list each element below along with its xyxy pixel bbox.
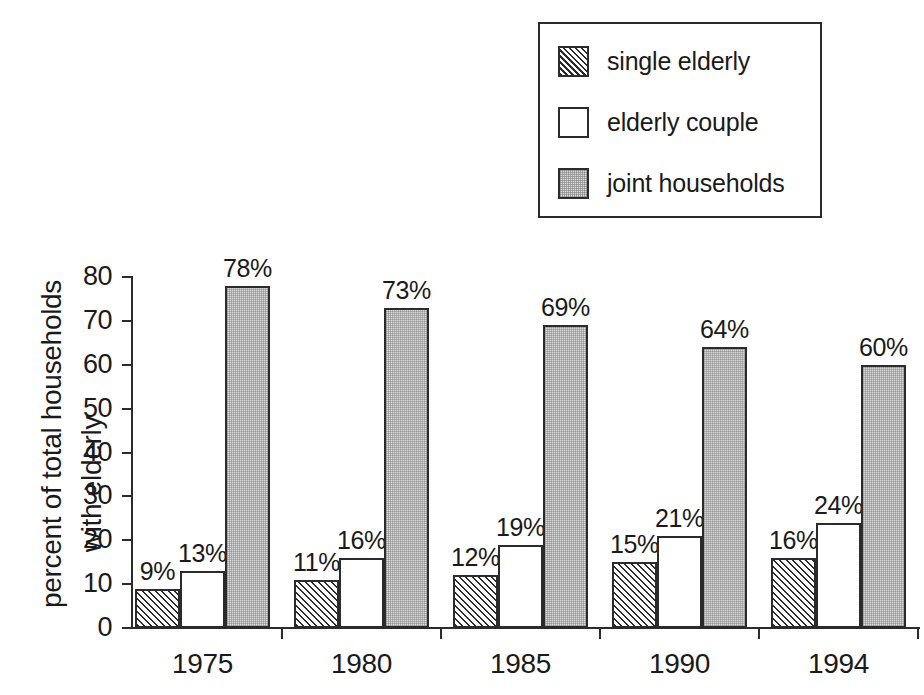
x-axis-group-label-1985: 1985 (433, 650, 608, 678)
y-axis-tick (122, 364, 133, 366)
bar-joint-households-1975 (225, 286, 270, 628)
y-axis-tick (122, 452, 133, 454)
y-axis-tick (122, 276, 133, 278)
bar-elderly-couple-1975 (180, 571, 225, 628)
y-axis-title-line1: percent of total households (38, 244, 66, 644)
bar-single-elderly-1990 (612, 562, 657, 628)
bar-value-label: 64% (688, 317, 761, 342)
bar-single-elderly-1975 (135, 589, 180, 628)
bar-elderly-couple-1980 (339, 558, 384, 628)
bar-value-label: 78% (211, 256, 284, 281)
x-axis-group-label-1994: 1994 (751, 650, 924, 678)
bar-value-label: 73% (370, 278, 443, 303)
bar-joint-households-1980 (384, 308, 429, 628)
bar-single-elderly-1980 (294, 580, 339, 628)
y-axis-tick (122, 408, 133, 410)
y-axis-tick (122, 320, 133, 322)
x-axis-separator-tick (281, 628, 283, 639)
bar-joint-households-1990 (702, 347, 747, 628)
bar-joint-households-1985 (543, 325, 588, 628)
x-axis-separator-tick (599, 628, 601, 639)
y-axis-tick (122, 495, 133, 497)
y-axis-tick (122, 627, 133, 629)
x-axis-separator-tick (758, 628, 760, 639)
bar-elderly-couple-1990 (657, 536, 702, 628)
bar-elderly-couple-1994 (816, 523, 861, 628)
bar-joint-households-1994 (861, 365, 906, 628)
bar-single-elderly-1994 (771, 558, 816, 628)
bar-single-elderly-1985 (453, 575, 498, 628)
y-axis-title-line2: with elderly (78, 284, 106, 684)
y-axis-tick (122, 539, 133, 541)
x-axis-group-label-1975: 1975 (115, 650, 290, 678)
x-axis-separator-tick (440, 628, 442, 639)
x-axis-group-label-1990: 1990 (592, 650, 767, 678)
bar-value-label: 69% (529, 295, 602, 320)
x-axis-group-label-1980: 1980 (274, 650, 449, 678)
bar-elderly-couple-1985 (498, 545, 543, 628)
bar-value-label: 60% (847, 335, 920, 360)
x-axis-separator-tick (917, 628, 919, 639)
